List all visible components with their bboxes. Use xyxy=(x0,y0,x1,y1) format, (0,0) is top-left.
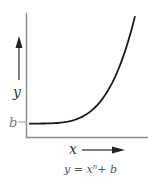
equation-plus: + xyxy=(97,163,110,176)
b-label: b xyxy=(9,115,17,130)
diagram-canvas: b y x y = xn+ b xyxy=(0,0,148,180)
x-axis-label: x xyxy=(69,141,77,157)
equation-constant: b xyxy=(110,163,117,176)
x-arrow-head xyxy=(112,147,125,154)
y-axis-label: y xyxy=(12,84,22,100)
equation-equals: = xyxy=(70,163,86,176)
y-arrow-head xyxy=(16,36,23,48)
equation: y = xn+ b xyxy=(63,163,117,176)
growth-curve xyxy=(29,16,135,123)
